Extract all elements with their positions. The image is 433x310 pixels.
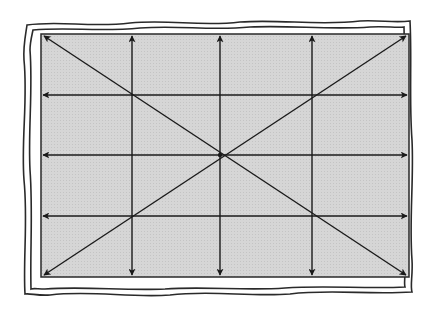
grid-diagram xyxy=(0,0,433,310)
center-point xyxy=(218,153,222,157)
